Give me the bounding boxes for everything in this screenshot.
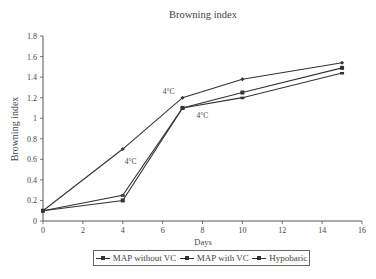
- line-marker-icon: [96, 258, 110, 259]
- legend-item-map-with-vc: MAP with VC: [180, 253, 249, 263]
- y-tick-label: 1.6: [27, 53, 37, 62]
- temperature-annotation: 4°C: [197, 111, 209, 120]
- temperature-annotation: 4°C: [125, 157, 137, 166]
- y-axis-label: Browning index: [9, 97, 20, 162]
- data-point-marker: [121, 194, 125, 197]
- data-point-marker: [240, 77, 244, 81]
- x-tick-label: 16: [358, 226, 366, 235]
- line-marker-icon: [252, 258, 266, 259]
- data-point-marker: [181, 107, 185, 110]
- data-point-marker: [240, 97, 244, 100]
- data-point-marker: [340, 61, 344, 65]
- x-axis-label: Days: [194, 237, 211, 247]
- y-tick-label: 1.8: [27, 32, 37, 41]
- line-marker-icon: [180, 258, 194, 259]
- y-tick-label: 1.4: [27, 73, 37, 82]
- x-tick-label: 4: [121, 226, 125, 235]
- chart-legend: MAP without VC MAP with VC Hypobaric: [93, 250, 310, 266]
- temperature-annotation: 4°C: [163, 87, 175, 96]
- x-tick-label: 0: [41, 226, 45, 235]
- series-line: [43, 68, 342, 211]
- series-line: [43, 63, 342, 211]
- legend-label: MAP with VC: [197, 253, 249, 263]
- y-tick-label: 0.4: [27, 176, 37, 185]
- y-tick-label: 0.2: [27, 196, 37, 205]
- x-tick-label: 12: [278, 226, 286, 235]
- data-point-marker: [240, 91, 244, 95]
- y-tick-label: 1.2: [27, 94, 37, 103]
- data-series: [41, 61, 344, 213]
- browning-index-chart: Browning index 024681012141600.20.40.60.…: [0, 0, 376, 279]
- legend-item-map-without-vc: MAP without VC: [96, 253, 177, 263]
- y-tick-label: 0: [33, 217, 37, 226]
- legend-label: Hypobaric: [269, 253, 307, 263]
- y-tick-label: 1: [33, 114, 37, 123]
- annotations: 4°C4°C4°C: [125, 87, 209, 167]
- x-tick-label: 6: [161, 226, 165, 235]
- axes: 024681012141600.20.40.60.811.21.41.61.8: [27, 32, 366, 235]
- data-point-marker: [121, 198, 125, 202]
- x-tick-label: 14: [318, 226, 326, 235]
- chart-title: Browning index: [169, 9, 238, 20]
- legend-item-hypobaric: Hypobaric: [252, 253, 307, 263]
- data-point-marker: [340, 66, 344, 70]
- legend-label: MAP without VC: [113, 253, 177, 263]
- x-tick-label: 10: [238, 226, 246, 235]
- y-tick-label: 0.6: [27, 155, 37, 164]
- x-tick-label: 8: [201, 226, 205, 235]
- data-point-marker: [340, 72, 344, 75]
- series-line: [43, 73, 342, 211]
- data-point-marker: [41, 210, 45, 213]
- x-tick-label: 2: [81, 226, 85, 235]
- y-tick-label: 0.8: [27, 135, 37, 144]
